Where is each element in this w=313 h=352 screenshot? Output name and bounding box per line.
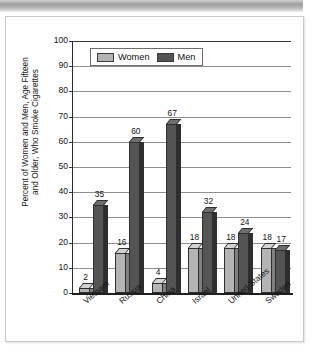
plot-area: 2351660467183218241817 (73, 41, 291, 293)
bar-united-states-women (224, 248, 235, 293)
bar-value-label: 32 (197, 196, 220, 206)
bar-front-face (202, 212, 213, 293)
y-tick-label: 80 (46, 85, 68, 95)
bar-israel-men (202, 212, 213, 293)
bar-value-label: 60 (124, 126, 147, 136)
bar-side-face (140, 142, 144, 293)
gridline (73, 41, 291, 42)
chart-legend: Women Men (90, 48, 203, 66)
y-tick-label: 0 (46, 287, 68, 297)
bar-side-face (213, 212, 217, 293)
bar-front-face (129, 142, 140, 293)
gridline (73, 142, 291, 143)
bar-front-face (166, 124, 177, 293)
y-tick-label: 20 (46, 237, 68, 247)
bar-russia-women (115, 253, 126, 293)
bar-value-label: 24 (233, 217, 256, 227)
bar-value-label: 35 (88, 189, 111, 199)
bar-front-face (115, 253, 126, 293)
y-axis-tick-labels: 1009080706050403020100 (46, 17, 68, 343)
y-axis-title-line-2: and Older, Who Smoke Cigarettes (31, 29, 41, 235)
y-tick-label: 30 (46, 211, 68, 221)
gridline (73, 91, 291, 92)
x-axis-category-labels: VietnamRussiaChinaIsraelUnited StatesSwe… (73, 298, 293, 342)
bar-china-men (166, 124, 177, 293)
bar-value-label: 17 (270, 234, 293, 244)
top-banner-strip (0, 0, 313, 12)
y-tick-label: 100 (46, 35, 68, 45)
gridline (73, 66, 291, 67)
y-tick-label: 90 (46, 60, 68, 70)
bar-front-face (224, 248, 235, 293)
y-tick-label: 50 (46, 161, 68, 171)
y-tick-label: 70 (46, 111, 68, 121)
legend-label-men: Men (178, 52, 196, 62)
chart-frame: Percent of Women and Men, Age Fifteen an… (5, 16, 304, 342)
legend-swatch-men-icon (157, 53, 174, 62)
bar-russia-men (129, 142, 140, 293)
y-axis-title-line-1: Percent of Women and Men, Age Fifteen (21, 29, 31, 235)
y-tick-label: 10 (46, 262, 68, 272)
legend-item-women: Women (97, 52, 150, 62)
bar-front-face (188, 248, 199, 293)
legend-label-women: Women (118, 52, 150, 62)
bar-israel-women (188, 248, 199, 293)
x-axis-line (72, 293, 293, 295)
bar-value-label: 67 (161, 108, 184, 118)
legend-item-men: Men (157, 52, 196, 62)
bar-side-face (177, 124, 181, 293)
y-tick-label: 40 (46, 186, 68, 196)
gridline (73, 167, 291, 168)
y-tick-label: 60 (46, 136, 68, 146)
legend-swatch-women-icon (97, 53, 114, 62)
chart-canvas: Percent of Women and Men, Age Fifteen an… (6, 17, 305, 343)
banner-end-cap (303, 0, 313, 12)
